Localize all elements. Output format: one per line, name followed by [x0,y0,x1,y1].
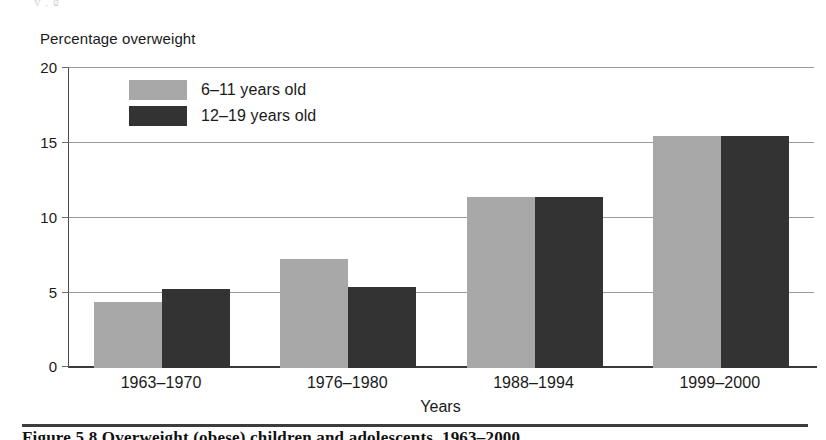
legend-item: 6–11 years old [129,80,316,100]
y-axis-tick [62,142,69,143]
plot-area: 05101520 6–11 years old12–19 years old [68,68,813,368]
figure-caption: Figure 5.8 Overweight (obese) children a… [22,428,808,440]
y-axis-tick [62,67,69,68]
x-axis-tick-label: 1999–2000 [679,374,760,392]
bar [653,136,721,369]
legend-label: 12–19 years old [201,107,316,125]
x-axis-tick-label: 1988–1994 [493,374,574,392]
y-axis-tick-label: 15 [40,134,57,151]
y-axis-tick [62,292,69,293]
legend-item: 12–19 years old [129,106,316,126]
x-axis-tick-label: 1963–1970 [121,374,202,392]
y-axis-tick-label: 20 [40,59,57,76]
legend-label: 6–11 years old [201,81,306,99]
bar [162,289,230,369]
figure-container: Percentage overweight 05101520 6–11 year… [0,0,826,440]
bar [467,197,535,368]
y-axis-tick [62,217,69,218]
legend-swatch [129,80,187,100]
bar [348,287,416,368]
legend-swatch [129,106,187,126]
y-axis-tick [62,366,69,367]
x-axis-tick-labels: 1963–19701976–19801988–19941999–2000 [68,374,813,398]
chart-legend: 6–11 years old12–19 years old [129,80,316,126]
bar [94,302,162,368]
bar [535,197,603,368]
y-axis-tick-label: 10 [40,209,57,226]
x-axis-title: Years [68,398,813,416]
caption-divider [22,424,808,427]
bar [280,259,348,369]
x-axis-tick-label: 1976–1980 [307,374,388,392]
bar [721,136,789,369]
y-axis-tick-label: 5 [49,284,57,301]
y-axis-title: Percentage overweight [40,30,196,47]
y-axis-tick-label: 0 [49,358,57,375]
